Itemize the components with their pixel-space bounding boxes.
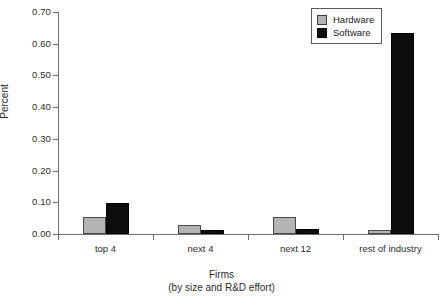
x-axis-tick (248, 235, 249, 240)
y-axis-tick-label: 0.00 (11, 229, 51, 239)
bar-hardware-next-12 (273, 217, 296, 234)
bar-software-rest-of-industry (391, 33, 414, 234)
y-axis-tick-label: 0.40 (11, 102, 51, 112)
x-axis-category-label: next 4 (188, 243, 214, 254)
x-axis-title-line1: Firms (0, 268, 443, 281)
y-axis-tick-label: 0.60 (11, 39, 51, 49)
bar-chart-figure: 0.000.100.200.300.400.500.600.70 top 4ne… (0, 0, 443, 305)
y-axis-title: Percent (0, 84, 10, 118)
x-axis-tick (58, 235, 59, 240)
x-axis-category-label: next 12 (280, 243, 311, 254)
software-swatch-icon (317, 28, 327, 38)
legend-item-software: Software (317, 26, 374, 39)
x-axis-tick (438, 235, 439, 240)
bar-software-next-12 (296, 229, 319, 234)
x-axis-category-label: rest of industry (359, 243, 421, 254)
y-axis-tick-label: 0.30 (11, 134, 51, 144)
legend: Hardware Software (311, 8, 382, 44)
plot-area (58, 12, 438, 234)
legend-item-hardware: Hardware (317, 13, 374, 26)
bar-hardware-rest-of-industry (368, 230, 391, 234)
bar-software-top-4 (106, 203, 129, 234)
x-axis-tick (153, 235, 154, 240)
x-axis-title-line2: (by size and R&D effort) (0, 281, 443, 294)
bar-software-next-4 (201, 230, 224, 234)
bar-hardware-top-4 (83, 217, 106, 234)
bar-hardware-next-4 (178, 225, 201, 235)
x-axis-category-label: top 4 (95, 243, 116, 254)
x-axis-title: Firms (by size and R&D effort) (0, 268, 443, 294)
x-axis-tick (343, 235, 344, 240)
hardware-swatch-icon (317, 15, 327, 25)
y-axis-tick-label: 0.10 (11, 197, 51, 207)
y-axis-tick-label: 0.50 (11, 70, 51, 80)
y-axis-tick-label: 0.20 (11, 166, 51, 176)
legend-label-software: Software (333, 27, 371, 38)
legend-label-hardware: Hardware (333, 14, 374, 25)
y-axis-tick-label: 0.70 (11, 7, 51, 17)
